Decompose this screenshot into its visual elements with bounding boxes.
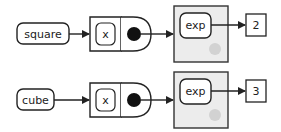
environment-dot-icon (127, 27, 141, 41)
output-value: 3 (253, 85, 260, 98)
inner-call-label: exp (185, 19, 205, 32)
environment-panel: exp (174, 72, 228, 128)
empty-environment-icon (209, 43, 221, 55)
environment-dot-icon (127, 93, 141, 107)
row-cube: cube x exp 3 (17, 72, 266, 128)
input-label: cube (22, 94, 49, 107)
param-label: x (102, 94, 109, 107)
row-square: square x exp 2 (17, 6, 266, 62)
output-value: 2 (253, 19, 260, 32)
empty-environment-icon (209, 109, 221, 121)
inner-call-label: exp (185, 85, 205, 98)
environment-panel: exp (174, 6, 228, 62)
param-label: x (102, 28, 109, 41)
function-factory-diagram: square x exp 2 cube x (0, 0, 281, 132)
input-label: square (24, 28, 62, 41)
